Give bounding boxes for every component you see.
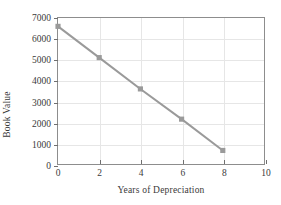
x-axis-title: Years of Depreciation — [57, 185, 265, 195]
x-axis-tick-label: 2 — [97, 168, 102, 178]
y-axis-tick-label: 4000 — [32, 76, 51, 86]
y-axis-tick-label: 5000 — [32, 55, 51, 65]
y-axis-tick-label: 7000 — [32, 13, 51, 23]
x-axis-tick-label: 6 — [180, 168, 185, 178]
y-axis-tick-label: 0 — [46, 161, 51, 171]
x-axis-title-text: Years of Depreciation — [117, 185, 204, 195]
x-axis-tick-label: 10 — [261, 168, 271, 178]
data-point-marker — [97, 55, 102, 60]
x-axis-tick-label: 4 — [139, 168, 144, 178]
data-series — [58, 18, 264, 164]
y-axis-tick-label: 6000 — [32, 34, 51, 44]
data-point-marker — [55, 24, 60, 29]
y-axis-tick-label: 2000 — [32, 119, 51, 129]
data-point-marker — [179, 117, 184, 122]
chart-figure: Book Value 01000200030004000500060007000… — [0, 0, 281, 205]
y-axis-title: Book Value — [0, 0, 14, 205]
data-point-marker — [138, 86, 143, 91]
y-axis-tick-label: 3000 — [32, 98, 51, 108]
y-axis-title-text: Book Value — [2, 91, 12, 137]
x-axis-tick-label: 0 — [56, 168, 61, 178]
plot-area: 01000200030004000500060007000 0246810 — [57, 17, 265, 165]
y-axis-tick — [54, 166, 58, 167]
y-axis-tick-label: 1000 — [32, 140, 51, 150]
x-axis-tick — [266, 160, 267, 164]
x-axis-tick-label: 8 — [222, 168, 227, 178]
data-point-marker — [220, 148, 225, 153]
